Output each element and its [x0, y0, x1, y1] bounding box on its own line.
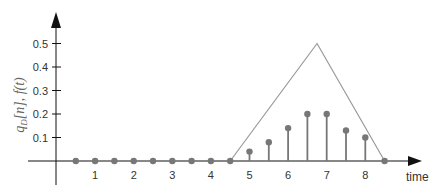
sample-dot — [343, 127, 349, 133]
sample-dot — [188, 158, 194, 164]
x-tick-label: 3 — [169, 169, 175, 181]
y-tick-label: 0.4 — [33, 61, 48, 73]
sample-dot — [169, 158, 175, 164]
y-axis-arrow-icon — [51, 12, 61, 28]
sample-dot — [246, 148, 252, 154]
sample-dot — [131, 158, 137, 164]
sample-dot — [208, 158, 214, 164]
x-tick-label: 6 — [285, 169, 291, 181]
x-axis-title: time — [406, 170, 429, 184]
x-tick-label: 1 — [92, 169, 98, 181]
y-ticks: 0.10.20.30.40.5 — [33, 38, 61, 144]
x-tick-label: 7 — [324, 169, 330, 181]
sample-dot — [266, 139, 272, 145]
x-tick-label: 4 — [208, 169, 214, 181]
chart: 0.10.20.30.40.5 12345678 time qD[n], f(t… — [0, 0, 438, 193]
sample-dot — [285, 125, 291, 131]
x-axis-arrow-icon — [408, 156, 422, 166]
sample-dot — [227, 158, 233, 164]
sample-dot — [92, 158, 98, 164]
sample-dot — [362, 134, 368, 140]
y-tick-label: 0.1 — [33, 132, 48, 144]
sample-dot — [150, 158, 156, 164]
x-ticks: 12345678 — [92, 169, 368, 181]
sample-dot — [304, 111, 310, 117]
axes — [28, 12, 422, 185]
y-tick-label: 0.3 — [33, 85, 48, 97]
x-tick-label: 8 — [362, 169, 368, 181]
sample-dot — [324, 111, 330, 117]
sample-dot — [73, 158, 79, 164]
y-tick-label: 0.2 — [33, 108, 48, 120]
stem-samples — [73, 111, 388, 164]
x-tick-label: 5 — [246, 169, 252, 181]
sample-dot — [381, 158, 387, 164]
y-tick-label: 0.5 — [33, 38, 48, 50]
sample-dot — [111, 158, 117, 164]
x-tick-label: 2 — [131, 169, 137, 181]
y-axis-title: qD[n], f(t) — [12, 77, 29, 133]
